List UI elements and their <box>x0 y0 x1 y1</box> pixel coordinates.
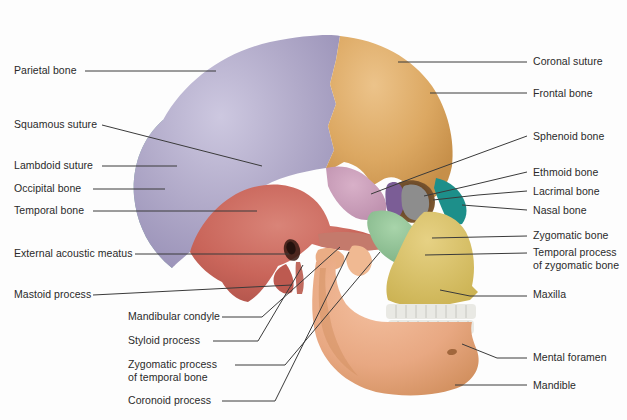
label-temporal-bone: Temporal bone <box>14 204 84 217</box>
label-ethmoid-bone: Ethmoid bone <box>533 166 598 179</box>
label-frontal-bone: Frontal bone <box>533 87 593 100</box>
label-zygomatic-process: Zygomatic process of temporal bone <box>128 358 217 383</box>
label-coronal-suture: Coronal suture <box>533 55 603 68</box>
label-nasal-bone: Nasal bone <box>533 204 587 217</box>
label-layer: Parietal boneSquamous sutureLambdoid sut… <box>0 0 627 420</box>
label-zygomatic-bone: Zygomatic bone <box>533 229 608 242</box>
label-mental-foramen: Mental foramen <box>533 351 607 364</box>
label-coronoid-process: Coronoid process <box>128 394 211 407</box>
label-squamous-suture: Squamous suture <box>14 118 97 131</box>
label-parietal-bone: Parietal bone <box>14 64 77 77</box>
label-mandibular-condyle: Mandibular condyle <box>128 310 220 323</box>
label-lacrimal-bone: Lacrimal bone <box>533 185 600 198</box>
label-mastoid-process: Mastoid process <box>14 288 91 301</box>
label-maxilla: Maxilla <box>533 288 566 301</box>
label-occipital-bone: Occipital bone <box>14 182 81 195</box>
figure-canvas: Parietal boneSquamous sutureLambdoid sut… <box>0 0 627 420</box>
label-sphenoid-bone: Sphenoid bone <box>533 130 604 143</box>
label-external-acoustic-meatus: External acoustic meatus <box>14 247 133 260</box>
label-mandible: Mandible <box>533 379 576 392</box>
label-styloid-process: Styloid process <box>128 334 200 347</box>
label-temporal-process: Temporal process of zygomatic bone <box>533 246 619 271</box>
label-lambdoid-suture: Lambdoid suture <box>14 159 93 172</box>
